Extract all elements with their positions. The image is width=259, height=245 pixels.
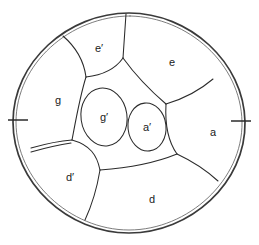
edge-d-upper [100,154,177,170]
region-label-a: a [210,127,216,138]
edge-g-dprime-to-rim-b [31,143,71,152]
disc-outline-outer [13,13,245,233]
region-label-a-prime: a′ [143,122,151,133]
edge-a-left [166,104,177,154]
region-label-g-prime: g′ [100,112,108,123]
disc-outline-inner [16,16,242,230]
figure-container: g e′ e a d d′ g′ a′ [0,0,259,245]
region-label-e: e [169,57,175,68]
edge-eprime-lower-left [86,58,123,77]
region-label-g: g [55,95,61,106]
edge-d-dprime-to-rim [85,170,100,220]
region-label-d-prime: d′ [66,172,74,183]
disc-boundary [13,13,245,233]
region-label-e-prime: e′ [95,43,103,54]
edge-e-inner-left [123,58,166,104]
partitioned-disc-diagram [0,0,259,245]
edge-dprime-upper [72,140,100,170]
region-label-d: d [149,194,155,205]
edge-top-vertical [123,14,126,58]
edge-a-d-to-rim [177,154,218,181]
edge-eprime-to-rim [63,36,86,77]
edge-e-a-to-rim [166,79,213,104]
partition-curves [31,14,218,220]
